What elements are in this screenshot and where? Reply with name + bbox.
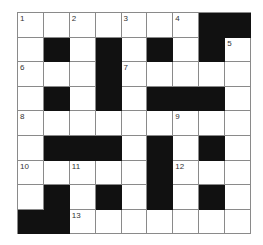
black-square xyxy=(44,210,70,235)
black-square xyxy=(173,87,199,112)
black-square xyxy=(147,38,173,63)
black-square xyxy=(225,13,251,38)
crossword-cell[interactable] xyxy=(225,210,251,235)
black-square xyxy=(18,210,44,235)
crossword-cell[interactable] xyxy=(96,111,122,136)
crossword-cell[interactable]: 12 xyxy=(173,161,199,186)
crossword-cell[interactable] xyxy=(70,87,96,112)
crossword-cell[interactable] xyxy=(147,62,173,87)
crossword-cell[interactable] xyxy=(44,161,70,186)
black-square xyxy=(199,185,225,210)
crossword-cell[interactable] xyxy=(70,185,96,210)
crossword-cell[interactable]: 3 xyxy=(122,13,148,38)
black-square xyxy=(199,136,225,161)
crossword-cell[interactable]: 13 xyxy=(70,210,96,235)
crossword-cell[interactable] xyxy=(225,62,251,87)
crossword-cell[interactable]: 5 xyxy=(225,38,251,63)
crossword-cell[interactable]: 6 xyxy=(18,62,44,87)
crossword-cell[interactable] xyxy=(225,136,251,161)
crossword-cell[interactable] xyxy=(122,111,148,136)
crossword-cell[interactable]: 1 xyxy=(18,13,44,38)
crossword-cell[interactable]: 9 xyxy=(173,111,199,136)
clue-number: 4 xyxy=(175,14,179,23)
crossword-cell[interactable] xyxy=(225,87,251,112)
crossword-cell[interactable] xyxy=(96,13,122,38)
clue-number: 3 xyxy=(124,14,128,23)
crossword-cell[interactable] xyxy=(199,210,225,235)
crossword-cell[interactable] xyxy=(18,38,44,63)
crossword-cell[interactable] xyxy=(122,136,148,161)
clue-number: 9 xyxy=(175,112,179,121)
black-square xyxy=(199,13,225,38)
crossword-cell[interactable] xyxy=(44,62,70,87)
crossword-cell[interactable] xyxy=(96,210,122,235)
crossword-cell[interactable] xyxy=(18,136,44,161)
crossword-cell[interactable] xyxy=(225,185,251,210)
crossword-cell[interactable] xyxy=(70,111,96,136)
crossword-cell[interactable]: 2 xyxy=(70,13,96,38)
crossword-cell[interactable] xyxy=(122,87,148,112)
crossword-grid: 12345678910111213 xyxy=(17,12,251,234)
crossword-cell[interactable] xyxy=(122,185,148,210)
clue-number: 10 xyxy=(20,162,29,171)
crossword-cell[interactable]: 11 xyxy=(70,161,96,186)
black-square xyxy=(44,87,70,112)
crossword-cell[interactable] xyxy=(70,38,96,63)
clue-number: 2 xyxy=(72,14,76,23)
crossword-cell[interactable] xyxy=(225,111,251,136)
crossword-cell[interactable] xyxy=(199,161,225,186)
crossword-cell[interactable] xyxy=(122,161,148,186)
black-square xyxy=(147,136,173,161)
crossword-cell[interactable] xyxy=(70,62,96,87)
clue-number: 5 xyxy=(227,39,231,48)
clue-number: 7 xyxy=(124,63,128,72)
crossword-cell[interactable]: 10 xyxy=(18,161,44,186)
crossword-cell[interactable] xyxy=(96,161,122,186)
black-square xyxy=(199,38,225,63)
black-square xyxy=(147,185,173,210)
crossword-cell[interactable] xyxy=(225,161,251,186)
crossword-cell[interactable] xyxy=(44,111,70,136)
black-square xyxy=(96,87,122,112)
crossword-cell[interactable]: 7 xyxy=(122,62,148,87)
crossword-cell[interactable] xyxy=(173,185,199,210)
clue-number: 13 xyxy=(72,211,81,220)
black-square xyxy=(44,185,70,210)
black-square xyxy=(199,87,225,112)
crossword-cell[interactable] xyxy=(147,210,173,235)
crossword-cell[interactable] xyxy=(173,38,199,63)
black-square xyxy=(96,38,122,63)
clue-number: 11 xyxy=(72,162,80,171)
crossword-cell[interactable] xyxy=(44,13,70,38)
crossword-cell[interactable] xyxy=(173,62,199,87)
crossword-cell[interactable] xyxy=(199,62,225,87)
crossword-cell[interactable] xyxy=(147,111,173,136)
crossword-cell[interactable]: 8 xyxy=(18,111,44,136)
crossword-cell[interactable]: 4 xyxy=(173,13,199,38)
black-square xyxy=(147,87,173,112)
crossword-cell[interactable] xyxy=(173,136,199,161)
black-square xyxy=(44,38,70,63)
black-square xyxy=(96,62,122,87)
black-square xyxy=(147,161,173,186)
black-square xyxy=(96,185,122,210)
clue-number: 8 xyxy=(20,112,24,121)
crossword-cell[interactable] xyxy=(199,111,225,136)
black-square xyxy=(44,136,70,161)
clue-number: 12 xyxy=(175,162,184,171)
crossword-cell[interactable] xyxy=(18,87,44,112)
crossword-cell[interactable] xyxy=(147,13,173,38)
clue-number: 6 xyxy=(20,63,24,72)
clue-number: 1 xyxy=(20,14,24,23)
black-square xyxy=(96,136,122,161)
crossword-cell[interactable] xyxy=(18,185,44,210)
black-square xyxy=(70,136,96,161)
crossword-cell[interactable] xyxy=(173,210,199,235)
crossword-cell[interactable] xyxy=(122,210,148,235)
crossword-cell[interactable] xyxy=(122,38,148,63)
